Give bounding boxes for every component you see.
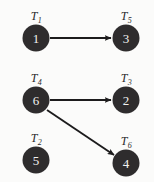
node-t1-label: T1 xyxy=(31,9,42,24)
node-t2-value: 5 xyxy=(23,147,50,174)
node-t2: T2 5 xyxy=(23,147,50,174)
node-t4-value: 6 xyxy=(23,87,50,114)
node-t3: T3 2 xyxy=(113,87,140,114)
diagram-canvas: T1 1 T5 3 T4 6 T3 2 T2 5 T6 4 xyxy=(0,0,154,182)
node-t3-value: 2 xyxy=(113,87,140,114)
node-t5: T5 3 xyxy=(113,25,140,52)
node-t2-label: T2 xyxy=(31,131,42,146)
node-t3-label: T3 xyxy=(121,71,132,86)
node-t6-label: T6 xyxy=(121,134,132,149)
node-t1-value: 1 xyxy=(23,25,50,52)
node-t5-label: T5 xyxy=(121,9,132,24)
node-t6: T6 4 xyxy=(113,150,140,177)
node-t4-label: T4 xyxy=(31,71,42,86)
node-t4: T4 6 xyxy=(23,87,50,114)
node-t1: T1 1 xyxy=(23,25,50,52)
node-t5-value: 3 xyxy=(113,25,140,52)
edge-t4-t6 xyxy=(47,110,114,155)
node-t6-value: 4 xyxy=(113,150,140,177)
